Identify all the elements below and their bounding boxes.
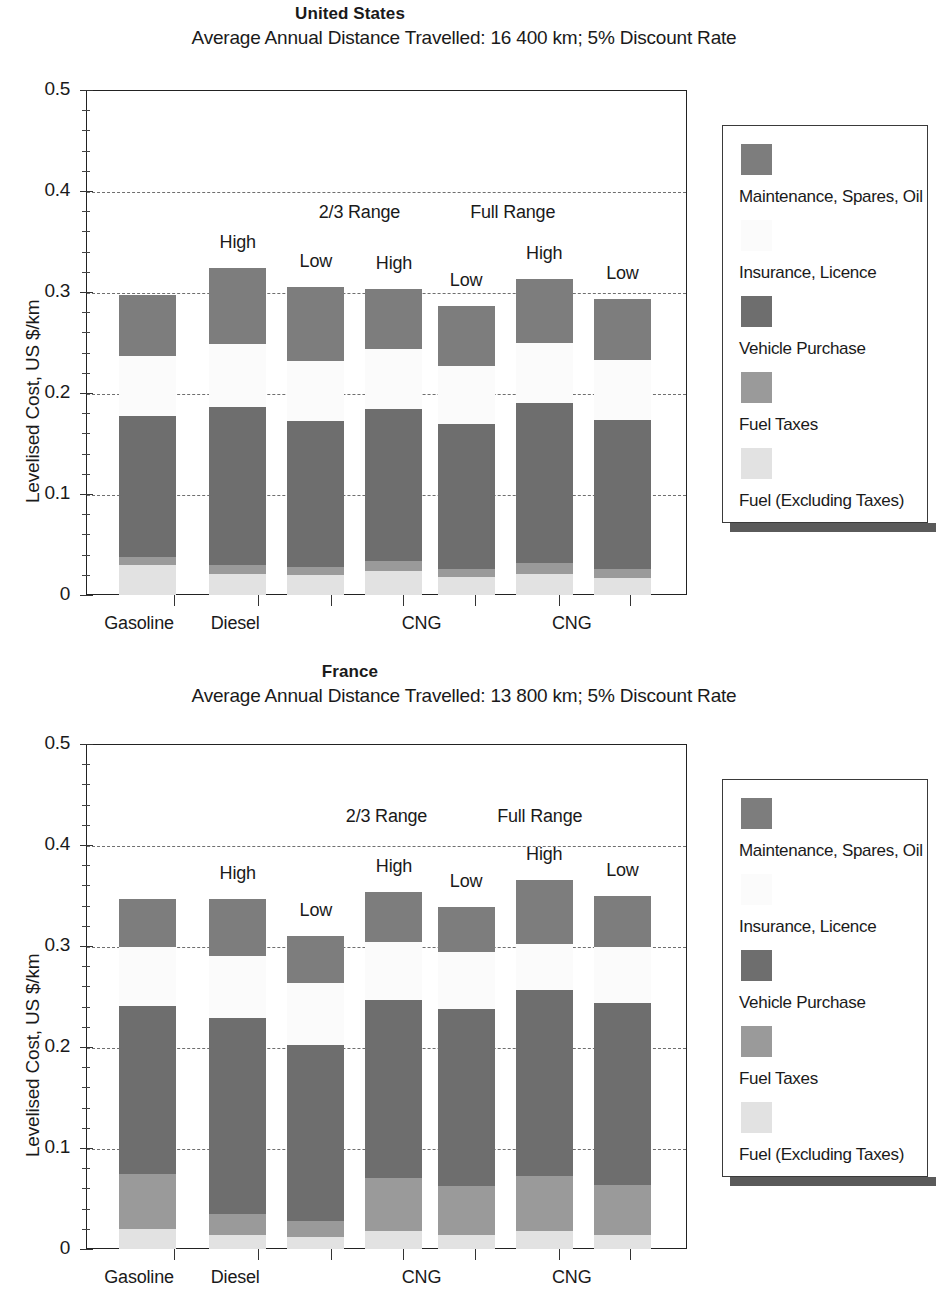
x-axis-tick [559,595,560,606]
y-axis-tick-minor [82,353,90,354]
segment-fuel-excluding-taxes [438,1235,495,1249]
segment-vehicle-purchase [594,420,651,568]
x-axis-category-label: CNG [357,1267,487,1288]
segment-insurance-licence [516,343,573,404]
y-axis-tick-minor [82,784,90,785]
legend-label: Fuel Taxes [739,415,818,435]
segment-fuel-taxes [209,1214,266,1235]
segment-insurance-licence [438,366,495,425]
segment-fuel-excluding-taxes [287,575,344,595]
y-axis-tick-major [80,946,93,947]
x-axis-tick [174,1249,175,1260]
y-axis-tick-major [80,494,93,495]
y-axis-tick-minor [82,1209,90,1210]
y-axis-tick-label: 0.4 [18,833,70,855]
legend-shadow [730,523,936,532]
x-axis-tick [559,1249,560,1260]
y-axis-tick-minor [82,1188,90,1189]
segment-vehicle-purchase [119,416,176,556]
segment-fuel-taxes [438,569,495,577]
segment-vehicle-purchase [209,407,266,565]
y-axis-tick-minor [82,555,90,556]
x-axis-tick [403,1249,404,1260]
y-axis-tick-minor [82,312,90,313]
x-axis-tick [258,595,259,606]
segment-fuel-taxes [209,565,266,574]
segment-fuel-excluding-taxes [119,1229,176,1249]
y-axis-tick-major [80,595,93,596]
legend-label: Fuel Taxes [739,1069,818,1089]
segment-maintenance [516,880,573,944]
segment-insurance-licence [438,952,495,1009]
y-axis-tick-minor [82,906,90,907]
y-axis-tick-label: 0.5 [18,78,70,100]
segment-vehicle-purchase [594,1003,651,1186]
y-axis-tick-minor [82,1007,90,1008]
segment-fuel-taxes [119,557,176,565]
segment-fuel-excluding-taxes [438,577,495,595]
segment-maintenance [594,896,651,948]
stacked-bar [209,744,266,1249]
y-axis-tick-minor [82,373,90,374]
legend-label: Fuel (Excluding Taxes) [739,491,904,511]
y-axis-tick-label: 0.1 [18,1136,70,1158]
legend-label: Maintenance, Spares, Oil [739,841,923,861]
y-axis-tick-minor [82,171,90,172]
segment-fuel-taxes [516,563,573,574]
segment-maintenance [438,907,495,952]
chart-subtitle: Average Annual Distance Travelled: 16 40… [0,27,928,49]
segment-fuel-taxes [287,1221,344,1237]
y-axis-tick-label: 0.3 [18,934,70,956]
y-axis-tick-label: 0.2 [18,381,70,403]
segment-insurance-licence [209,344,266,408]
legend-swatch [741,950,772,981]
segment-fuel-excluding-taxes [516,574,573,595]
stacked-bar [119,744,176,1249]
y-axis-tick-label: 0.5 [18,732,70,754]
y-axis-tick-minor [82,1168,90,1169]
y-axis-tick-minor [82,433,90,434]
bar-annotation: Low [273,900,358,921]
y-axis-tick-major [80,393,93,394]
segment-vehicle-purchase [438,424,495,568]
legend-swatch [741,1102,772,1133]
x-axis-tick [174,595,175,606]
x-axis-category-label: CNG [357,613,487,634]
segment-insurance-licence [594,360,651,421]
y-axis-tick-minor [82,534,90,535]
y-axis-tick-label: 0.3 [18,280,70,302]
x-axis-category-label: CNG [507,613,637,634]
range-annotation: Full Range [480,806,600,827]
stacked-bar [209,90,266,595]
segment-maintenance [287,287,344,361]
range-annotation: 2/3 Range [299,202,419,223]
y-axis-tick-minor [82,454,90,455]
bar-annotation: High [502,243,587,264]
y-axis-tick-major [80,1249,93,1250]
segment-vehicle-purchase [365,1000,422,1179]
legend-swatch [741,372,772,403]
y-axis-tick-minor [82,825,90,826]
x-axis-tick [331,595,332,606]
legend-label: Vehicle Purchase [739,339,866,359]
legend-swatch [741,296,772,327]
segment-maintenance [209,268,266,344]
y-axis-tick-minor [82,110,90,111]
stacked-bar [594,90,651,595]
legend: Maintenance, Spares, OilInsurance, Licen… [722,125,928,523]
segment-vehicle-purchase [365,409,422,561]
segment-fuel-excluding-taxes [594,1235,651,1249]
chart-title: United States [0,4,700,24]
chart-title: France [0,662,700,682]
y-axis-tick-minor [82,764,90,765]
segment-vehicle-purchase [119,1006,176,1175]
legend-swatch [741,144,772,175]
legend-swatch [741,874,772,905]
segment-fuel-taxes [365,1178,422,1231]
y-axis-tick-minor [82,332,90,333]
segment-fuel-taxes [438,1186,495,1234]
legend-label: Insurance, Licence [739,917,876,937]
y-axis-tick-minor [82,575,90,576]
y-axis-tick-major [80,1148,93,1149]
segment-fuel-excluding-taxes [209,574,266,595]
